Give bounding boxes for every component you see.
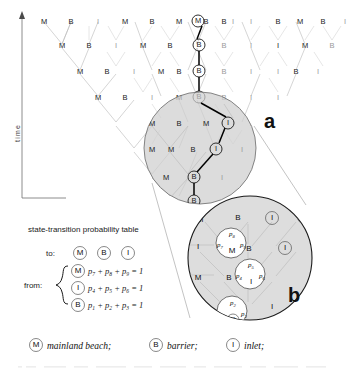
legend: M mainland beach; B barrier; I inlet; <box>30 339 265 352</box>
node-label: I <box>311 273 313 282</box>
legend-text-m: mainland beach; <box>47 341 111 351</box>
figure-root: time <box>0 0 354 373</box>
table-from-label: from: <box>24 281 42 290</box>
node-label: I <box>317 67 319 76</box>
ray-right <box>254 126 306 205</box>
node-label: M <box>158 67 164 76</box>
node-label: B <box>235 213 240 222</box>
node-label: I <box>197 242 199 251</box>
row-state: B <box>75 300 80 309</box>
figure-svg: time <box>0 0 354 373</box>
panel-b-lens: M B I B I B I I M B I M I B p8 p7 p9 <box>188 196 316 326</box>
node-label: I <box>250 41 252 50</box>
node-label: M <box>149 145 155 154</box>
node-label: M <box>77 67 83 76</box>
prob-cluster-I: p5 p4 p6 I <box>235 259 266 289</box>
node-label: B <box>246 244 251 253</box>
prob-cluster-M: p8 p7 p9 M <box>216 228 247 258</box>
node-label: B <box>122 93 127 102</box>
node-label: I <box>271 213 273 222</box>
node-label: B <box>275 17 280 26</box>
node-label: I <box>250 67 252 76</box>
table-header-m: M <box>77 248 84 257</box>
lens-circle-a <box>144 92 256 204</box>
node-label: M <box>140 41 146 50</box>
node-label: B <box>86 41 91 50</box>
node-label: M <box>196 301 203 310</box>
node-label: M <box>203 119 209 128</box>
legend-symbol-i: I <box>232 340 234 349</box>
node-label: B <box>293 67 298 76</box>
node-label: I <box>232 17 234 26</box>
path-node: B <box>196 66 201 75</box>
table-header-i: I <box>127 248 129 257</box>
node-label: M <box>168 145 174 154</box>
node-label: I <box>221 173 223 182</box>
panel-a-label: a <box>264 110 276 132</box>
node-label: I <box>277 67 279 76</box>
node-label: B <box>176 119 181 128</box>
node-label: I <box>133 67 135 76</box>
node-label: I <box>241 145 243 154</box>
prob-cluster-state: B <box>230 315 235 324</box>
table-brace <box>56 266 68 304</box>
node-label: M <box>122 17 128 26</box>
row-equation: p7 + p8 + p9 = 1 <box>87 266 143 277</box>
node-label: M <box>59 41 65 50</box>
node-label: B <box>301 212 306 221</box>
node-label: I <box>277 41 279 50</box>
node-label: I <box>151 93 153 102</box>
table-header-b: B <box>101 248 106 257</box>
node-label: B <box>320 17 325 26</box>
row-equation: p1 + p2 + p3 = 1 <box>87 300 143 311</box>
node-label: M <box>163 173 169 182</box>
node-label: M <box>302 41 308 50</box>
node-label: B <box>68 17 73 26</box>
lattice-row-0: M B I M B M B I M B I B M B I <box>41 15 346 27</box>
node-label: B <box>221 67 226 76</box>
legend-item-inlet: I inlet; <box>227 339 265 352</box>
table-row: I p4 + p5 + p6 = 1 <box>72 282 144 295</box>
prob-cluster-state: I <box>250 277 252 286</box>
row-state: I <box>77 283 79 292</box>
node-label: I <box>314 243 316 252</box>
time-axis-arrow <box>19 11 25 19</box>
path-start-node: M <box>195 16 201 25</box>
prob-cluster-state: M <box>229 246 236 255</box>
panel-b-label: b <box>288 284 300 306</box>
node-label: B <box>176 67 181 76</box>
table-to-label: to: <box>46 249 55 258</box>
node-label: M <box>176 17 182 26</box>
legend-item-mainland: M mainland beach; <box>30 339 112 352</box>
row-equation: p4 + p5 + p6 = 1 <box>87 283 143 294</box>
node-label: M <box>41 17 47 26</box>
legend-symbol-m: M <box>33 340 40 349</box>
path-node: I <box>215 144 217 153</box>
node-label: I <box>97 17 99 26</box>
table-row: M p7 + p8 + p9 = 1 <box>72 265 144 278</box>
node-label: B <box>149 17 154 26</box>
path-node: B <box>196 40 201 49</box>
node-label: B <box>226 273 231 282</box>
prob-cluster-B: p2 p1 p3 B <box>217 296 248 326</box>
time-axis-label: time <box>14 124 21 142</box>
node-label: B <box>221 17 226 26</box>
legend-item-barrier: B barrier; <box>150 339 198 352</box>
table-title: state-transition probability table <box>28 225 139 234</box>
path-segment <box>197 26 202 39</box>
path-node: I <box>227 118 229 127</box>
probability-table: state-transition probability table to: M… <box>24 225 143 312</box>
node-label: B <box>329 41 334 50</box>
path-node: B <box>191 172 196 181</box>
node-label: M <box>195 273 202 282</box>
legend-text-b: barrier; <box>167 341 198 351</box>
node-label: B <box>221 41 226 50</box>
node-label: M <box>149 119 155 128</box>
node-label: M <box>95 93 101 102</box>
node-label: I <box>250 119 252 128</box>
node-label: I <box>277 93 279 102</box>
legend-text-i: inlet; <box>244 341 264 351</box>
node-label: I <box>250 93 252 102</box>
node-label: I <box>250 17 252 26</box>
caption-fragment <box>18 366 326 368</box>
